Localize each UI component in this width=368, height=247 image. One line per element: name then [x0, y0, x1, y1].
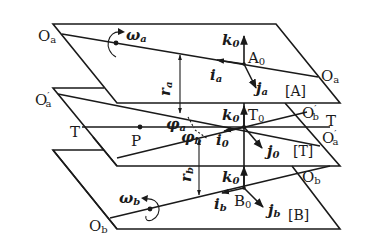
- label-B-bracket: [B]: [288, 207, 309, 223]
- label-Ob-left: Ob: [89, 217, 108, 235]
- omega-b-point: [148, 207, 153, 212]
- rotation-omega-b-arrowhead-icon: [141, 195, 148, 202]
- j0-vector: [244, 127, 262, 148]
- label-Ob-right: Ob: [302, 168, 321, 186]
- label-T0: T0: [248, 106, 264, 124]
- label-P: P: [131, 132, 141, 150]
- label-phi-b: φb: [181, 128, 202, 146]
- P-point: [138, 125, 143, 130]
- label-Oa-left: Oa: [38, 27, 56, 45]
- label-Opa-right: O′a: [322, 128, 339, 147]
- label-rb: rb: [177, 167, 195, 182]
- label-omega-b: ωb: [119, 189, 140, 207]
- label-j0: j0: [264, 142, 279, 160]
- label-jb: jb: [265, 201, 280, 219]
- gear-axes-coordinate-diagram: Oa ωa k0 A0 ia ja [A] Oa ra O′a T P φa φ…: [0, 0, 368, 247]
- plane-T-left-edge-front: [93, 137, 117, 166]
- plane-B-left-edge-front: [53, 150, 117, 229]
- label-A-bracket: [A]: [285, 83, 306, 99]
- label-k0-T: k0: [222, 106, 239, 124]
- label-T-bracket: [T]: [293, 143, 313, 159]
- label-T-left: T: [70, 123, 80, 141]
- label-Opb-right: O′b: [302, 103, 319, 122]
- label-Opa-left: O′a: [35, 90, 52, 109]
- label-k0-B: k0: [222, 168, 239, 186]
- label-i0: i0: [216, 131, 229, 149]
- label-Oa-right: Oa: [321, 67, 339, 85]
- label-B0: B0: [234, 192, 251, 210]
- omega-a-point: [114, 41, 119, 46]
- label-ib: ib: [214, 195, 227, 213]
